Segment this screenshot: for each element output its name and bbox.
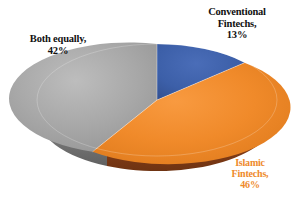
pie-chart: Conventional Fintechs, 13% Both equally,… — [0, 0, 291, 203]
pie-label-islamic-fintechs: Islamic Fintechs, 46% — [212, 157, 288, 190]
pie-label-conventional-fintechs: Conventional Fintechs, 13% — [186, 6, 288, 41]
pie-label-both-equally: Both equally, 42% — [6, 33, 110, 56]
